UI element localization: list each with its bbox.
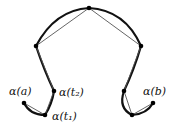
point-t2	[52, 89, 57, 94]
point-3	[34, 44, 39, 49]
curve-diagram: α(a) α(t₂) α(t₁) α(b)	[0, 0, 173, 137]
inscribed-polygon	[24, 8, 153, 115]
point-a	[22, 101, 27, 106]
point-5	[139, 44, 144, 49]
label-alpha-b: α(b)	[143, 85, 166, 98]
curve-alpha	[24, 8, 153, 115]
label-alpha-a: α(a)	[9, 85, 32, 98]
point-7	[130, 113, 135, 118]
point-t1	[43, 113, 48, 118]
point-b	[151, 101, 156, 106]
point-4	[87, 6, 92, 11]
label-alpha-t2: α(t₂)	[59, 86, 84, 99]
label-alpha-t1: α(t₁)	[52, 110, 77, 123]
point-6	[122, 89, 127, 94]
